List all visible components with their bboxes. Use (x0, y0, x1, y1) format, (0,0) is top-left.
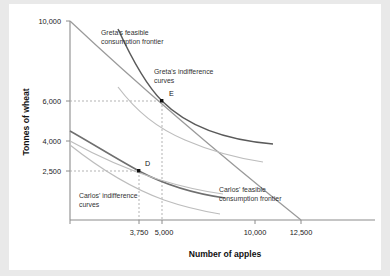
carlos-indifference-line2: curves (79, 201, 100, 208)
x-tick-label-12500: 12,500 (290, 228, 313, 237)
gretas-indifference-curves-annotation: Greta's indifference curves (154, 68, 214, 84)
x-axis-title: Number of apples (189, 249, 262, 259)
gretas-feasible-frontier-line1: Greta's feasible (101, 29, 149, 36)
x-tick-label-3750: 3,750 (130, 228, 149, 237)
carlos-indifference-curves-annotation: Carlos' indifference curves (79, 192, 138, 208)
gretas-feasible-frontier-line2: consumption frontier (101, 38, 164, 46)
y-tick-label-4000: 4,000 (43, 137, 62, 146)
carlos-feasible-frontier-annotation: Carlos' feasible consumption frontier (219, 186, 282, 203)
economics-chart: 10,000 6,000 4,000 2,500 3,750 5,000 10,… (9, 4, 381, 270)
data-point-e-marker[interactable] (160, 99, 163, 102)
gretas-lower-indifference-curve (118, 87, 263, 162)
data-point-d-label: D (145, 159, 150, 168)
y-axis-title: Tonnes of wheat (21, 88, 31, 155)
carlos-feasible-frontier-line1: Carlos' feasible (219, 186, 266, 193)
chart-card: 10,000 6,000 4,000 2,500 3,750 5,000 10,… (9, 4, 381, 270)
gretas-indifference-line1: Greta's indifference (154, 68, 214, 75)
x-tick-label-5000: 5,000 (155, 228, 174, 237)
data-point-e-label: E (169, 89, 174, 98)
y-tick-label-6000: 6,000 (43, 97, 62, 106)
x-tick-label-10000: 10,000 (244, 228, 267, 237)
gretas-indifference-line2: curves (154, 77, 175, 84)
data-point-d-marker[interactable] (137, 169, 140, 172)
gretas-feasible-frontier-annotation: Greta's feasible consumption frontier (101, 29, 164, 46)
carlos-indifference-line1: Carlos' indifference (79, 192, 138, 199)
y-tick-label-10000: 10,000 (38, 17, 61, 26)
y-tick-label-2500: 2,500 (43, 167, 62, 176)
carlos-feasible-frontier-line2: consumption frontier (219, 195, 282, 203)
